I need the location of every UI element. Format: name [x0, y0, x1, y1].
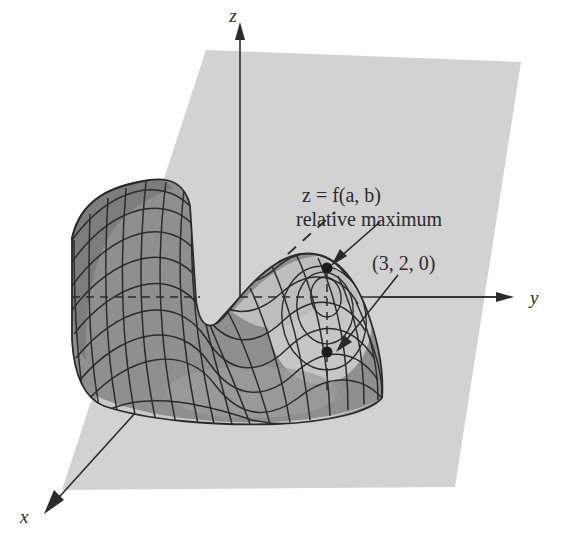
z-axis-label: z: [228, 5, 237, 26]
y-axis-label: y: [528, 287, 539, 308]
surface-figure: z y x z = f(a, b) relative maximum (3, 2…: [0, 0, 572, 553]
base-point: [322, 347, 333, 358]
relative-maximum-label: relative maximum: [296, 208, 443, 230]
x-axis-arrow: [44, 490, 64, 514]
figure-canvas: z y x z = f(a, b) relative maximum (3, 2…: [0, 0, 572, 553]
point-coordinates-label: (3, 2, 0): [372, 252, 435, 275]
function-label: z = f(a, b): [302, 184, 381, 207]
maximum-point: [322, 263, 333, 274]
x-axis-label: x: [19, 506, 29, 527]
